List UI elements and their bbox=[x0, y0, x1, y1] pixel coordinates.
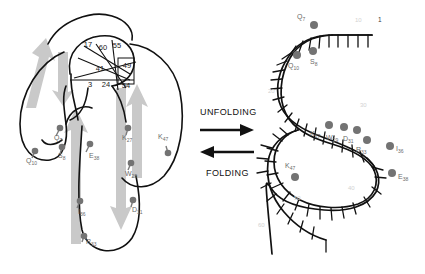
residue-dot bbox=[310, 21, 318, 29]
tick-number: 50 bbox=[294, 195, 301, 201]
residue-dot bbox=[386, 142, 394, 150]
contact-number: 54 bbox=[122, 81, 130, 90]
residue-marker bbox=[86, 141, 93, 152]
residue-marker bbox=[165, 146, 172, 156]
strand-arrow-down-center bbox=[110, 88, 132, 230]
contact-number: 55 bbox=[113, 41, 121, 50]
residue-dot bbox=[388, 169, 396, 177]
contact-number: 49 bbox=[123, 61, 131, 70]
contact-number: 3 bbox=[88, 80, 92, 89]
right-panel-unfolded: 10 20 30 40 50 60 1 Q7 S8 Q10 K27 bbox=[257, 13, 408, 254]
residue-dot bbox=[363, 136, 371, 144]
residue-label: I36 bbox=[396, 145, 404, 154]
left-residue-labels: Q7 S8 Q10 E38 K27 K47 W29 I36 D31 R33 bbox=[26, 133, 168, 247]
residue-label: E38 bbox=[89, 152, 99, 161]
protein-folding-figure: 17 60 55 41 49 3 24 54 Q7 S8 Q10 bbox=[0, 0, 425, 274]
terminus-label: 1 bbox=[378, 16, 382, 23]
contact-number: 41 bbox=[96, 64, 104, 73]
residue-dot bbox=[309, 47, 317, 55]
residue-dot bbox=[291, 173, 299, 181]
tick-number: 30 bbox=[360, 102, 367, 108]
residue-dot bbox=[340, 123, 348, 131]
tick-number: 60 bbox=[258, 222, 265, 228]
residue-label: Q7 bbox=[297, 13, 305, 22]
strand-arrow-up-center bbox=[64, 108, 88, 244]
residue-dot bbox=[293, 51, 301, 59]
unfolding-arrow-icon bbox=[200, 124, 254, 136]
residue-label: K47 bbox=[285, 162, 295, 171]
unfolding-label: UNFOLDING bbox=[200, 107, 257, 117]
residue-label: R33 bbox=[86, 238, 97, 247]
transition-arrows: UNFOLDING FOLDING bbox=[200, 107, 257, 178]
residue-dot bbox=[325, 121, 333, 129]
residue-label: D31 bbox=[343, 135, 354, 144]
strand-arrow-upleft bbox=[26, 38, 55, 108]
tick-number: 10 bbox=[355, 17, 362, 23]
figure-canvas: 17 60 55 41 49 3 24 54 Q7 S8 Q10 bbox=[0, 0, 425, 274]
residue-label: S8 bbox=[58, 152, 66, 161]
residue-label: D31 bbox=[132, 206, 143, 215]
tick-number: 20 bbox=[268, 88, 275, 94]
folding-arrow-icon bbox=[200, 146, 254, 158]
residue-label: W29 bbox=[326, 134, 338, 143]
residue-label: K47 bbox=[158, 133, 168, 142]
residue-dot bbox=[353, 126, 361, 134]
contact-number: 60 bbox=[99, 43, 107, 52]
unfolded-backbone bbox=[266, 35, 378, 254]
right-residue-labels: Q7 S8 Q10 K27 W29 D31 R33 I36 K47 E38 bbox=[285, 13, 408, 182]
left-panel-folded: 17 60 55 41 49 3 24 54 Q7 S8 Q10 bbox=[20, 14, 182, 251]
residue-label: E38 bbox=[398, 173, 408, 182]
contact-number: 17 bbox=[84, 40, 92, 49]
residue-label: Q10 bbox=[288, 62, 299, 71]
right-residue-markers bbox=[291, 21, 396, 181]
residue-label: I36 bbox=[78, 208, 86, 217]
tick-number: 40 bbox=[348, 185, 355, 191]
folding-label: FOLDING bbox=[206, 168, 249, 178]
contact-number-labels: 17 60 55 41 49 3 24 54 bbox=[84, 40, 131, 90]
left-residue-markers bbox=[32, 125, 172, 242]
contact-number: 24 bbox=[102, 80, 110, 89]
residue-label: S8 bbox=[310, 58, 318, 67]
